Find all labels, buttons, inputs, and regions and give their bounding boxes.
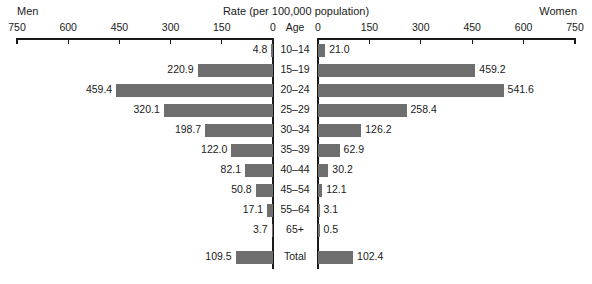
value-women-65+: 0.5: [324, 223, 339, 236]
tick-label-men-0: 0: [270, 21, 276, 34]
value-men-40–44: 82.1: [221, 163, 241, 176]
age-label-35–39: 35–39: [272, 143, 318, 156]
bar-women-55–64: [318, 204, 320, 217]
age-label-65+: 65+: [272, 223, 318, 236]
tick-label-women-150: 150: [361, 21, 379, 34]
age-label-15–19: 15–19: [272, 63, 318, 76]
tick-label-men-750: 750: [8, 21, 26, 34]
tick-label-women-750: 750: [566, 21, 584, 34]
bar-women-Total: [318, 251, 353, 264]
value-women-45–54: 12.1: [326, 183, 346, 196]
value-men-20–24: 459.4: [86, 83, 112, 96]
bar-men-Total: [236, 251, 273, 264]
chart-rows: 4.810–1421.0220.915–19459.2459.420–24541…: [0, 40, 592, 267]
value-women-20–24: 541.6: [508, 83, 534, 96]
chart-row: 50.845–5412.1: [0, 180, 592, 200]
value-men-35–39: 122.0: [201, 143, 227, 156]
age-label-45–54: 45–54: [272, 183, 318, 196]
bar-men-15–19: [198, 64, 273, 77]
bar-women-35–39: [318, 144, 340, 157]
value-women-35–39: 62.9: [344, 143, 364, 156]
bar-women-15–19: [318, 64, 475, 77]
age-label-Total: Total: [272, 250, 318, 263]
bar-men-35–39: [231, 144, 273, 157]
value-women-10–14: 21.0: [329, 43, 349, 56]
tick-label-men-150: 150: [213, 21, 231, 34]
age-label-20–24: 20–24: [272, 83, 318, 96]
value-men-10–14: 4.8: [253, 43, 268, 56]
tick-label-women-600: 600: [515, 21, 533, 34]
bar-women-65+: [318, 224, 320, 237]
chart-row: 198.730–34126.2: [0, 120, 592, 140]
value-men-30–34: 198.7: [175, 123, 201, 136]
chart-row: 459.420–24541.6: [0, 80, 592, 100]
age-axis-label: Age: [286, 21, 305, 34]
chart-row: 109.5Total102.4: [0, 247, 592, 267]
value-women-15–19: 459.2: [479, 63, 505, 76]
tick-label-women-450: 450: [463, 21, 481, 34]
bar-men-45–54: [256, 184, 273, 197]
tick-label-men-300: 300: [162, 21, 180, 34]
bar-men-30–34: [205, 124, 273, 137]
value-women-25–29: 258.4: [411, 103, 437, 116]
value-men-65+: 3.7: [253, 223, 268, 236]
value-men-55–64: 17.1: [243, 203, 263, 216]
value-women-55–64: 3.1: [324, 203, 339, 216]
value-men-Total: 109.5: [205, 250, 231, 263]
chart-header: Men Rate (per 100,000 population) Women: [0, 4, 592, 18]
value-men-45–54: 50.8: [231, 183, 251, 196]
chart-row: 122.035–3962.9: [0, 140, 592, 160]
value-men-25–29: 320.1: [133, 103, 159, 116]
chart-title: Rate (per 100,000 population): [0, 4, 592, 18]
value-men-15–19: 220.9: [167, 63, 193, 76]
tick-label-women-0: 0: [315, 21, 321, 34]
age-label-10–14: 10–14: [272, 43, 318, 56]
age-label-30–34: 30–34: [272, 123, 318, 136]
bar-men-40–44: [245, 164, 273, 177]
bar-women-20–24: [318, 84, 504, 97]
bar-women-45–54: [318, 184, 322, 197]
value-women-Total: 102.4: [357, 250, 383, 263]
chart-row: 220.915–19459.2: [0, 60, 592, 80]
women-side-label: Women: [539, 4, 577, 18]
population-pyramid-chart: Men Rate (per 100,000 population) Women …: [0, 0, 592, 284]
bar-women-40–44: [318, 164, 328, 177]
bar-men-20–24: [116, 84, 273, 97]
chart-row: 320.125–29258.4: [0, 100, 592, 120]
axis-tick-labels: Age 75060045030015000150300450600750: [0, 21, 592, 34]
tick-label-men-600: 600: [59, 21, 77, 34]
chart-row: 4.810–1421.0: [0, 40, 592, 60]
value-women-30–34: 126.2: [365, 123, 391, 136]
bar-men-25–29: [164, 104, 273, 117]
bar-women-30–34: [318, 124, 361, 137]
chart-row: 17.155–643.1: [0, 200, 592, 220]
age-label-55–64: 55–64: [272, 203, 318, 216]
chart-row: 3.765+0.5: [0, 220, 592, 240]
tick-label-men-450: 450: [111, 21, 129, 34]
chart-row: 82.140–4430.2: [0, 160, 592, 180]
bar-women-10–14: [318, 44, 325, 57]
age-label-40–44: 40–44: [272, 163, 318, 176]
value-women-40–44: 30.2: [332, 163, 352, 176]
tick-label-women-300: 300: [412, 21, 430, 34]
bar-women-25–29: [318, 104, 407, 117]
age-label-25–29: 25–29: [272, 103, 318, 116]
